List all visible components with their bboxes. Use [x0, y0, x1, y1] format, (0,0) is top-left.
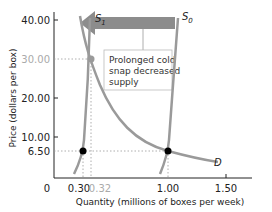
x-axis-title: Quantity (millions of boxes per week): [76, 197, 244, 207]
s0-label: S0: [182, 11, 193, 25]
x-tick-1-00: 1.00: [157, 183, 179, 194]
annotation-line-1: Prolonged cold: [109, 55, 175, 65]
y-ticks: 40.00 30.00 20.00 10.00 6.50: [21, 15, 58, 157]
supply-demand-chart: Price (dollars per box) 40.00 30.00 20.0…: [0, 0, 272, 212]
x-tick-0-30: 0.30: [68, 183, 90, 194]
s1-old-price-point: [80, 148, 87, 155]
y-tick-30: 30.00: [21, 54, 50, 65]
y-tick-40: 40.00: [21, 15, 50, 26]
y-axis-title: Price (dollars per box): [8, 49, 18, 148]
annotation-line-3: supply: [109, 77, 139, 87]
x-tick-1-50: 1.50: [215, 183, 237, 194]
new-equilibrium-point: [88, 56, 95, 63]
y-tick-6-50: 6.50: [28, 146, 50, 157]
x-tick-origin: 0: [44, 183, 50, 194]
x-tick-0-32: 0.32: [89, 183, 111, 194]
y-tick-20: 20.00: [21, 93, 50, 104]
original-equilibrium-point: [165, 148, 172, 155]
d-label: D: [214, 157, 222, 168]
y-tick-10: 10.00: [21, 132, 50, 143]
annotation-box: Prolonged cold snap decreased supply: [104, 29, 180, 90]
x-ticks: 0 0.30 0.32 1.00 1.50: [44, 174, 237, 194]
annotation-line-2: snap decreased: [109, 66, 180, 76]
